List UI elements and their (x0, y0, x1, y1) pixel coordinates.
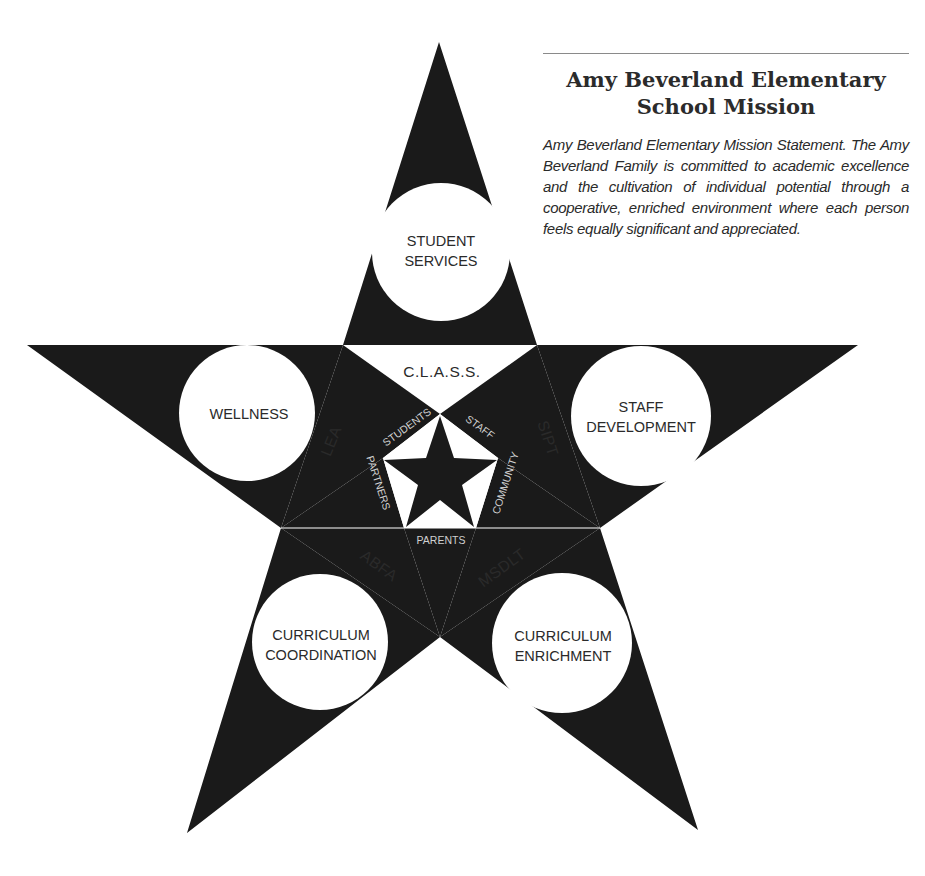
mission-statement: Amy Beverland Elementary Mission Stateme… (543, 134, 909, 239)
label-curriculum-coordination-2: COORDINATION (265, 647, 377, 663)
label-parents: PARENTS (417, 534, 466, 546)
label-curriculum-coordination-1: CURRICULUM (272, 627, 369, 643)
label-staff-development-2: DEVELOPMENT (586, 419, 696, 435)
label-curriculum-enrichment-2: ENRICHMENT (515, 648, 612, 664)
label-curriculum-enrichment-1: CURRICULUM (514, 628, 611, 644)
label-wellness: WELLNESS (210, 406, 289, 422)
circle-student-services (372, 183, 510, 321)
mission-title: Amy Beverland Elementary School Mission (543, 66, 909, 120)
label-student-services-1: STUDENT (407, 233, 476, 249)
label-class: C.L.A.S.S. (403, 363, 480, 380)
mission-panel: Amy Beverland Elementary School Mission … (543, 53, 909, 239)
label-staff-development-1: STAFF (619, 399, 664, 415)
divider (543, 53, 909, 54)
label-student-services-2: SERVICES (404, 253, 477, 269)
circle-staff-development (571, 346, 711, 486)
